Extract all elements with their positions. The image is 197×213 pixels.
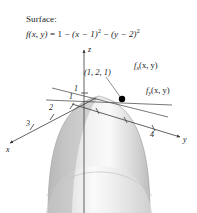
x-axis-label: x <box>5 145 10 154</box>
surface-partial-derivatives-figure: Surface: f(x, y) = 1 − (x − 1)2 − (y − 2… <box>0 0 197 213</box>
x-tick-2 <box>50 114 54 120</box>
marked-point <box>119 96 125 102</box>
z-axis-label: z <box>87 45 92 54</box>
tangent-label-fx-args: (x, y) <box>139 60 158 70</box>
x-tick-label-1: 1 <box>69 92 73 101</box>
tangent-label-fy: fy(x, y) <box>146 85 170 96</box>
x-tick-label-2: 2 <box>49 103 53 112</box>
y-axis-label: y <box>182 135 187 144</box>
tangent-label-fx: fx(x, y) <box>134 60 158 71</box>
point-label-leader-line <box>106 77 121 98</box>
y-tick-label-4: 4 <box>150 130 154 139</box>
x-tick-label-3: 3 <box>25 119 30 128</box>
tangent-label-fy-args: (x, y) <box>151 85 170 95</box>
x-tick-3 <box>30 124 34 130</box>
marked-point-label: (1, 2, 1) <box>84 67 111 77</box>
x-tick-1 <box>70 103 74 109</box>
surface-plot: z x y 1 1 2 3 4 (1, 2, 1) fx(x, y) fy(x,… <box>0 0 197 213</box>
z-tick-label-1: 1 <box>74 84 78 93</box>
